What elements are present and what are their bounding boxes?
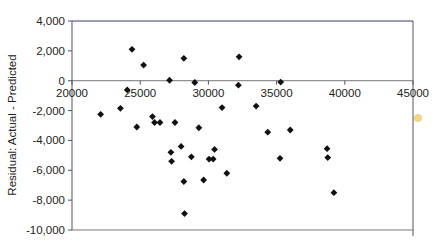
y-axis-label: Residual: Actual - Predicted [6, 54, 18, 195]
data-point-diamond-icon [235, 82, 242, 89]
data-point-diamond-icon [277, 155, 284, 162]
data-point-diamond-icon [117, 105, 124, 112]
data-point-diamond-icon [219, 104, 226, 111]
data-point-diamond-icon [287, 127, 294, 134]
data-point-diamond-icon [149, 113, 156, 120]
y-tick-label: -4,000 [32, 134, 65, 146]
scatter-chart: 4,0002,0000-2,000-4,000-6,000-8,000-10,0… [0, 0, 436, 243]
x-tick-label: 35000 [261, 87, 293, 99]
y-tick-label: -2,000 [32, 105, 65, 117]
data-point-diamond-icon [324, 145, 331, 152]
y-tick-label: -6,000 [32, 164, 65, 176]
x-tick-label: 45000 [397, 87, 429, 99]
data-point-diamond-icon [277, 79, 284, 86]
y-tick-label: 2,000 [36, 45, 65, 57]
plot-frame [72, 21, 413, 236]
data-point-diamond-icon [195, 124, 202, 131]
data-point-diamond-icon [200, 177, 207, 184]
data-point-diamond-icon [223, 170, 230, 177]
data-point-diamond-icon [253, 103, 260, 110]
data-point-diamond-icon [210, 156, 217, 163]
data-point-diamond-icon [129, 46, 136, 53]
data-point-diamond-icon [180, 55, 187, 62]
x-tick-label: 40000 [329, 87, 361, 99]
data-point-diamond-icon [180, 178, 187, 185]
y-tick-label: 4,000 [36, 15, 65, 27]
data-points [97, 46, 337, 217]
cursor-highlight-icon [414, 114, 422, 122]
data-point-diamond-icon [191, 79, 198, 86]
data-point-diamond-icon [178, 143, 185, 150]
data-point-diamond-icon [324, 154, 331, 161]
data-point-diamond-icon [172, 119, 179, 126]
data-point-diamond-icon [211, 146, 218, 153]
data-point-diamond-icon [188, 153, 195, 160]
y-tick-label: -8,000 [32, 194, 65, 206]
data-point-diamond-icon [157, 119, 164, 126]
y-tick-label: -10,000 [26, 224, 65, 236]
y-tick-label: 0 [59, 75, 65, 87]
data-point-diamond-icon [133, 124, 140, 131]
data-point-diamond-icon [330, 189, 337, 196]
data-point-diamond-icon [168, 158, 175, 165]
data-point-diamond-icon [236, 53, 243, 60]
data-point-diamond-icon [140, 62, 147, 69]
data-point-diamond-icon [97, 111, 104, 118]
data-point-diamond-icon [181, 210, 188, 217]
data-point-diamond-icon [167, 149, 174, 156]
y-axis: 4,0002,0000-2,000-4,000-6,000-8,000-10,0… [26, 15, 72, 236]
data-point-diamond-icon [264, 129, 271, 136]
plot-area: 4,0002,0000-2,000-4,000-6,000-8,000-10,0… [0, 0, 436, 243]
x-axis: 200002500030000350004000045000 [56, 81, 429, 99]
x-tick-label: 20000 [56, 87, 88, 99]
x-tick-label: 30000 [192, 87, 224, 99]
data-point-diamond-icon [166, 77, 173, 84]
